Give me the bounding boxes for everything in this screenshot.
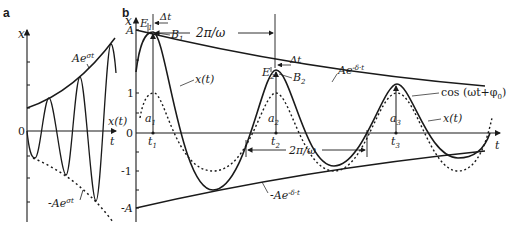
label-B2: B2 [292, 71, 306, 86]
panel-a-label: a [3, 6, 10, 20]
panel-a-envelope-upper-label: Aeσt [71, 52, 94, 65]
panel-b: b x t A 1 0 -1 -A [121, 6, 506, 222]
label-lower-envelope: -Ae-δ·t [270, 189, 300, 202]
panel-b-damped-curve [136, 32, 490, 190]
panel-a: a x t 0 Aeσt x(t) -Aeσt [3, 6, 127, 222]
tick-A: A [125, 24, 134, 37]
panel-b-upper-envelope [136, 30, 485, 86]
panel-b-cosine-curve [140, 93, 492, 171]
label-t3: t3 [391, 135, 400, 150]
panel-a-envelope-lower-label: -Aeσt [48, 197, 74, 210]
label-a2: a2 [268, 112, 280, 127]
label-E1: E1 [139, 17, 153, 32]
panel-a-origin: 0 [18, 125, 25, 138]
panel-a-curve-label: x(t) [108, 115, 127, 128]
period-label-top: 2π/ω [195, 26, 226, 40]
panel-a-y-label: x [18, 27, 25, 41]
period-label-bottom: 2π/ω [288, 144, 316, 157]
tick-1: 1 [127, 87, 134, 100]
label-B1: B1 [170, 28, 184, 43]
label-a1: a1 [145, 112, 156, 127]
tick-0: 0 [126, 127, 133, 140]
label-t1: t1 [148, 135, 157, 150]
tick-minus-A: -A [121, 202, 133, 215]
label-a3: a3 [390, 112, 402, 127]
label-cosine: cos (ωt+φ0) [441, 86, 506, 101]
label-xt-1: x(t) [195, 73, 214, 86]
label-t2: t2 [271, 135, 280, 150]
label-xt-2: x(t) [443, 112, 462, 125]
panel-b-x-label: t [495, 139, 500, 152]
panel-a-x-label: t [110, 135, 115, 148]
label-upper-envelope: Ae-δ·t [337, 64, 364, 77]
damped-oscillation-diagram: a x t 0 Aeσt x(t) -Aeσt b x t [0, 0, 513, 232]
label-E2: E2 [261, 66, 275, 81]
panel-a-upper-envelope [27, 38, 115, 108]
delta-t-1: Δt [159, 11, 172, 22]
tick-minus-1: -1 [121, 165, 132, 178]
panel-a-curve [27, 44, 116, 201]
panel-b-lower-envelope [136, 151, 485, 208]
delta-t-2: Δt [289, 54, 302, 65]
